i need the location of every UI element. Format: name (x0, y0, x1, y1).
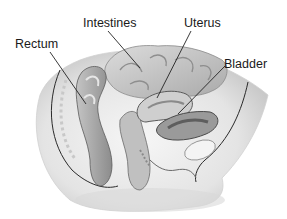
intestines-shape (105, 46, 227, 99)
label-rectum: Rectum (15, 38, 58, 51)
label-intestines: Intestines (83, 17, 137, 30)
label-uterus: Uterus (184, 17, 221, 30)
pelvis-illustration (0, 0, 287, 219)
pelvis-anatomy-diagram: Rectum Intestines Uterus Bladder (0, 0, 287, 219)
label-bladder: Bladder (224, 58, 267, 71)
